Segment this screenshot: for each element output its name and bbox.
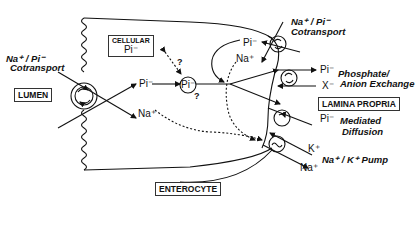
apical-cotransport-label-line2: Cotransport [10, 63, 64, 73]
apical-cotransporter [58, 72, 136, 128]
na-entry-label: Na⁺ [138, 109, 156, 119]
pi-entry-label: Pi⁻ [139, 79, 153, 89]
cellular-pool-ion: Pi⁻ [112, 45, 150, 55]
cellular-pool-title: CELLULAR [112, 37, 150, 44]
question-mark-upper: ? [177, 57, 183, 67]
basolateral-cotransport-label-line2: Cotransport [291, 27, 345, 37]
exchange-label-line2: Anion Exchange [340, 79, 414, 89]
exchange-pi-label: Pi⁻ [320, 65, 334, 75]
mediated-diffusion-carrier [268, 108, 312, 126]
exchange-x-label: X⁻ [322, 81, 334, 91]
diffusion-label-line2: Diffusion [342, 127, 383, 137]
diffusion-pi-label: Pi⁻ [320, 114, 334, 124]
na-recycle-label: Na⁺ [236, 54, 254, 64]
lumen-label: LUMEN [14, 88, 52, 102]
cellular-pi-pool-box: CELLULAR Pi⁻ [108, 35, 154, 57]
pump-label: Na⁺ / K⁺ Pump [322, 155, 388, 165]
pump-na-label: Na⁺ [300, 163, 318, 173]
enterocyte-label: ENTEROCYTE [155, 182, 221, 196]
lamina-propria-label: LAMINA PROPRIA [318, 97, 400, 111]
diffusion-label-line1: Mediated [340, 116, 381, 126]
question-mark-lower: ? [194, 91, 200, 101]
phosphate-anion-exchanger [278, 70, 316, 86]
pi-pool-label: Pi⁻ [181, 80, 195, 90]
pump-k-label: K⁺ [308, 144, 320, 154]
pi-recycle-label: Pi⁻ [243, 38, 257, 48]
